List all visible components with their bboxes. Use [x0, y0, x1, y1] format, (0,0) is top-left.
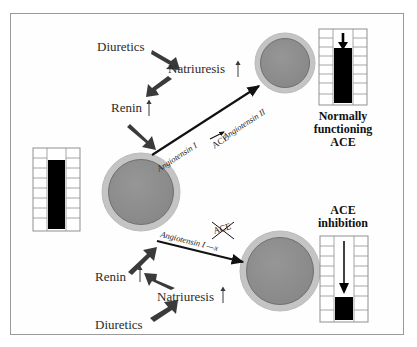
renin-label-bottom: Renin	[95, 270, 126, 283]
arrow-renin-to-kidney-top	[127, 124, 156, 150]
natriuresis-label-bottom: Natriuresis	[157, 290, 214, 303]
ace-inhibition-gauge	[320, 236, 368, 322]
baseline-gauge	[33, 148, 80, 231]
arrow-renin-to-kidney-bottom	[128, 247, 157, 275]
ace-inhibition-gauge-caption: ACE inhibition	[296, 204, 390, 230]
natriuresis-increase-arrow-bottom	[220, 287, 225, 304]
kidney-ace-inhibited	[240, 231, 320, 311]
natriuresis-label-top: Natriuresis	[168, 62, 225, 75]
normal-ace-gauge	[319, 29, 367, 105]
renin-increase-arrow-top	[146, 100, 151, 117]
ace-inhibition-gauge-bar	[335, 297, 353, 320]
figure-canvas: Diuretics Natriuresis Renin Angiotensin …	[0, 0, 417, 347]
renin-label-top: Renin	[111, 101, 142, 114]
kidney-normal-ace	[255, 33, 315, 93]
arrow-natriuresis-to-renin-top	[146, 76, 172, 97]
normal-ace-gauge-caption: Normally functioning ACE	[296, 110, 390, 149]
diuretics-label-bottom: Diuretics	[95, 318, 143, 331]
normal-ace-gauge-bar	[334, 48, 352, 103]
natriuresis-increase-arrow-top	[235, 61, 240, 78]
arrow-natriuresis-to-renin-bottom	[144, 273, 175, 290]
baseline-gauge-bar	[48, 160, 65, 229]
diuretics-label-top: Diuretics	[97, 40, 145, 53]
